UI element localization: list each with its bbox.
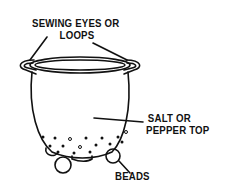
label-salt-pepper-top: SALT OR PEPPER TOP xyxy=(146,112,209,136)
label-line: BEADS xyxy=(115,170,150,182)
bead-left xyxy=(55,157,71,173)
label-line: SEWING EYES OR xyxy=(32,17,119,29)
rim-inner xyxy=(35,60,125,70)
label-beads: BEADS xyxy=(115,170,150,182)
label-sewing-eyes: SEWING EYES OR LOOPS xyxy=(32,17,119,41)
leader-salt-top xyxy=(94,118,143,122)
label-line: SALT OR xyxy=(146,112,209,124)
shaker-holes xyxy=(42,131,128,155)
label-line: LOOPS xyxy=(32,29,119,41)
label-line: PEPPER TOP xyxy=(146,124,209,136)
